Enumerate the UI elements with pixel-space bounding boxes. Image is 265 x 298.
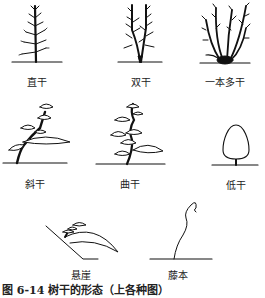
label-low-trunk: 低干 [226,180,246,192]
label-slanting-trunk: 斜干 [25,179,45,191]
label-curved-trunk: 曲干 [120,179,140,191]
straight-trunk-illustration [12,6,62,62]
label-double-trunk: 双干 [131,77,151,89]
figure-caption: 图 6-14 树干的形态（上各种图） [0,284,265,298]
label-cascade: 悬崖 [71,270,91,282]
low-trunk-illustration [212,125,258,165]
multi-trunk-illustration [200,3,250,64]
label-vine: 藤本 [168,270,188,282]
label-multi-trunk: 一本多干 [205,77,245,89]
cascade-illustration [46,223,118,260]
label-straight-trunk: 直干 [27,77,47,89]
vine-illustration [150,203,212,259]
slanting-trunk-illustration [3,104,70,163]
curved-trunk-illustration [96,104,165,164]
double-trunk-illustration [118,5,162,62]
